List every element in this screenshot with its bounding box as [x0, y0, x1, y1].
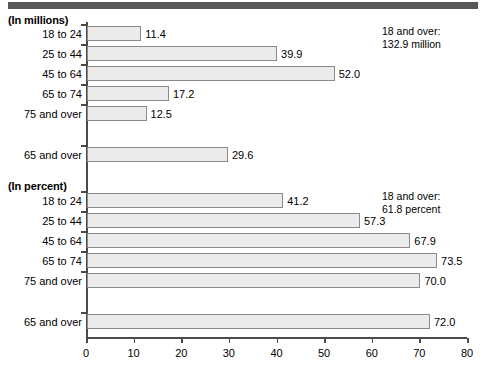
bar-row: 18 to 2441.2 [0, 191, 486, 211]
bar [87, 193, 283, 208]
bar-row-label: 65 to 74 [0, 87, 82, 101]
bar [87, 233, 410, 248]
bar-row: 25 to 4457.3 [0, 211, 486, 231]
x-axis-tick-label: 80 [447, 346, 486, 360]
bar-row-label: 45 to 64 [0, 234, 82, 248]
bar [87, 26, 141, 41]
x-axis-tick-label: 40 [257, 346, 297, 360]
bar-value-label: 39.9 [281, 47, 302, 61]
bar-value-label: 52.0 [339, 67, 360, 81]
bar-row: 45 to 6467.9 [0, 231, 486, 251]
y-axis-tick [81, 24, 86, 26]
y-axis-tick [81, 104, 86, 106]
bar [87, 147, 228, 162]
x-axis-tick-label: 70 [399, 346, 439, 360]
y-axis-tick [81, 231, 86, 233]
x-axis-tick-label: 20 [161, 346, 201, 360]
bar-row-label: 75 and over [0, 107, 82, 121]
bar-value-label: 11.4 [145, 27, 166, 41]
bar-row-label: 75 and over [0, 274, 82, 288]
bar-row: 65 and over29.6 [0, 145, 486, 165]
x-axis-tick [372, 338, 374, 343]
y-axis-tick [81, 211, 86, 213]
bar-row: 65 and over72.0 [0, 312, 486, 332]
bar [87, 273, 420, 288]
bar-row-label: 18 to 24 [0, 194, 82, 208]
y-axis-tick [81, 84, 86, 86]
y-axis-tick [81, 271, 86, 273]
bar-value-label: 29.6 [232, 148, 253, 162]
bar-chart: (In millions) 18 and over: 132.9 million… [0, 0, 486, 371]
x-axis-tick [86, 338, 88, 343]
x-axis-tick-label: 0 [66, 346, 106, 360]
x-axis-tick [229, 338, 231, 343]
bar [87, 213, 360, 228]
bar-row: 25 to 4439.9 [0, 44, 486, 64]
bar-row-label: 65 to 74 [0, 254, 82, 268]
bar-value-label: 73.5 [441, 254, 462, 268]
header-rule [8, 2, 478, 9]
bar-value-label: 41.2 [287, 194, 308, 208]
x-axis-tick [467, 338, 469, 343]
bar-row: 65 to 7473.5 [0, 251, 486, 271]
bar [87, 253, 437, 268]
bar-row: 45 to 6452.0 [0, 64, 486, 84]
bar-value-label: 72.0 [434, 315, 455, 329]
y-axis-tick [81, 44, 86, 46]
bar [87, 314, 430, 329]
y-axis-tick [81, 145, 86, 147]
x-axis-tick-label: 60 [352, 346, 392, 360]
bar-row-label: 25 to 44 [0, 47, 82, 61]
y-axis-tick [81, 251, 86, 253]
bar [87, 86, 169, 101]
bar-value-label: 17.2 [173, 87, 194, 101]
x-axis-tick [181, 338, 183, 343]
y-axis-tick [81, 191, 86, 193]
bar-row-label: 65 and over [0, 148, 82, 162]
bar-row-label: 65 and over [0, 315, 82, 329]
y-axis-tick [81, 312, 86, 314]
bar-value-label: 67.9 [414, 234, 435, 248]
y-axis-tick [81, 64, 86, 66]
x-axis-tick [324, 338, 326, 343]
bar-row-label: 45 to 64 [0, 67, 82, 81]
x-axis-tick [277, 338, 279, 343]
bar [87, 66, 335, 81]
bar [87, 46, 277, 61]
x-axis-tick-label: 50 [304, 346, 344, 360]
x-axis-tick-label: 10 [114, 346, 154, 360]
bar [87, 106, 147, 121]
x-axis-tick [134, 338, 136, 343]
bar-row: 65 to 7417.2 [0, 84, 486, 104]
bar-value-label: 57.3 [364, 214, 385, 228]
x-axis-tick-label: 30 [209, 346, 249, 360]
bar-row: 75 and over12.5 [0, 104, 486, 124]
bar-row: 75 and over70.0 [0, 271, 486, 291]
x-axis-tick [419, 338, 421, 343]
bar-row-label: 25 to 44 [0, 214, 82, 228]
bar-value-label: 70.0 [424, 274, 445, 288]
bar-row: 18 to 2411.4 [0, 24, 486, 44]
bar-row-label: 18 to 24 [0, 27, 82, 41]
bar-value-label: 12.5 [151, 107, 172, 121]
